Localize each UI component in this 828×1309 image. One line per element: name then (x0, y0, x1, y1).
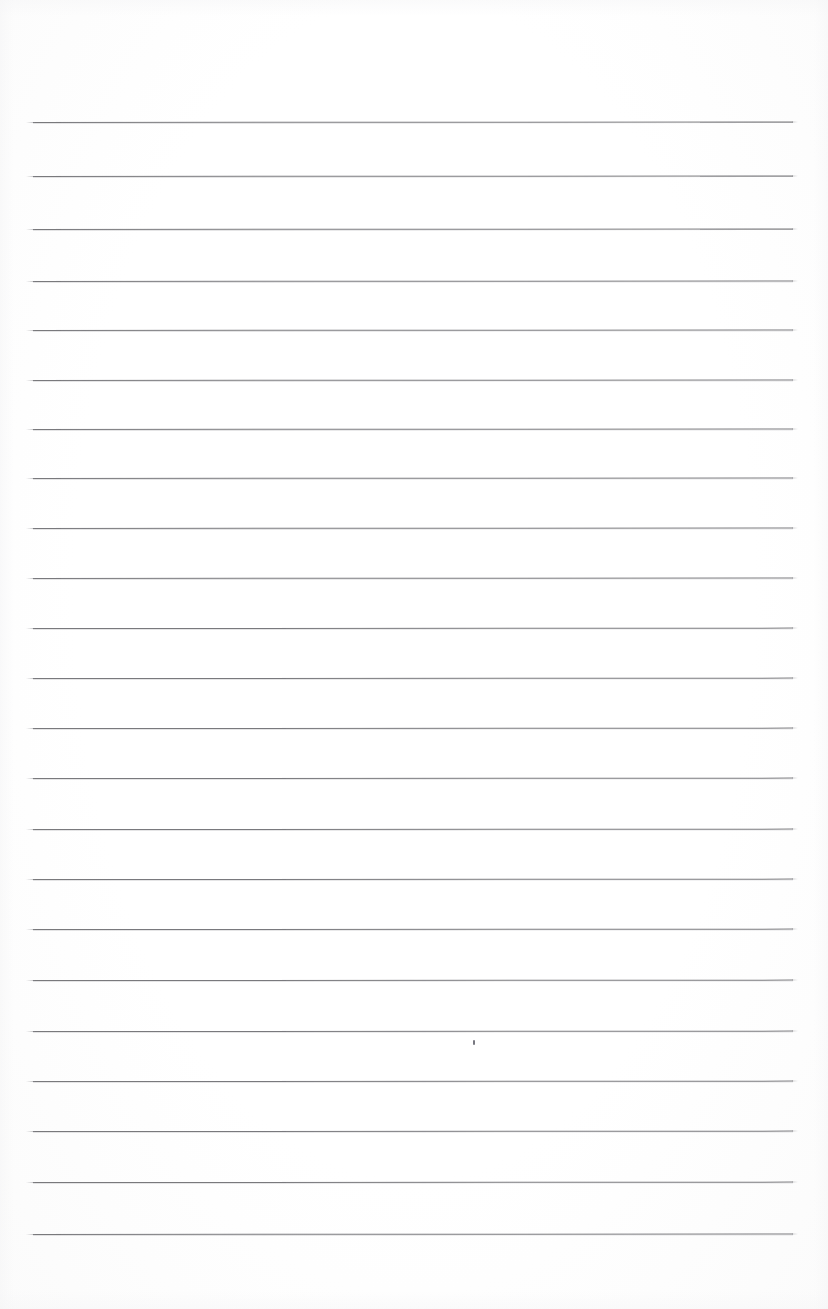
ruled-line (33, 330, 793, 331)
scan-edge-right (814, 0, 828, 1309)
ruled-line (33, 929, 793, 930)
ruled-line (33, 578, 793, 579)
ruled-line (33, 678, 793, 679)
ruled-line (33, 1081, 793, 1082)
scan-edge-bottom (0, 1291, 828, 1309)
scanned-page (0, 0, 828, 1309)
scan-edge-left (0, 0, 14, 1309)
ruled-line (33, 980, 793, 981)
ruled-line (33, 121, 793, 123)
ruled-line (33, 728, 793, 729)
ruled-line (33, 281, 793, 282)
ruled-line (33, 1234, 793, 1235)
ruled-line (33, 429, 793, 430)
ruled-line (33, 829, 793, 830)
ruled-line (33, 228, 793, 230)
ruled-line (33, 175, 793, 177)
scan-edge-top (0, 0, 828, 16)
ruled-line (33, 1031, 793, 1032)
ruled-line (33, 1182, 793, 1183)
ruled-line (33, 380, 793, 381)
ruled-line (33, 778, 793, 779)
ruled-line (33, 879, 793, 880)
ruled-line (33, 1131, 793, 1132)
ruled-line (33, 478, 793, 479)
ruled-line (33, 628, 793, 629)
stray-pencil-dot (473, 1040, 475, 1045)
paper-texture (0, 0, 828, 1309)
ruled-line (33, 528, 793, 529)
